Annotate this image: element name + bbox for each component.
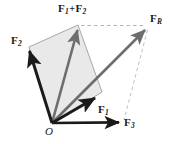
label-f1-main: F xyxy=(98,103,105,115)
label-f2-sub: 2 xyxy=(18,39,22,48)
label-f3-main: F xyxy=(124,116,131,128)
label-fr: FR xyxy=(150,13,162,24)
label-f1-plus-f2-operator: + xyxy=(69,3,76,14)
label-f1-plus-f2-first-main: F xyxy=(58,2,65,14)
label-f3-sub: 3 xyxy=(131,121,135,130)
label-f1: F1 xyxy=(98,104,109,115)
label-fr-main: F xyxy=(150,12,157,24)
label-f3: F3 xyxy=(124,117,135,128)
label-fr-sub: R xyxy=(157,17,162,26)
label-f1-plus-f2-first-sub: 1 xyxy=(65,7,69,16)
label-f2: F2 xyxy=(11,35,22,46)
label-f2-main: F xyxy=(11,34,18,46)
label-f1-plus-f2-second-sub: 2 xyxy=(83,7,87,16)
label-f1-plus-f2: F1+F2 xyxy=(58,3,86,14)
label-origin: O xyxy=(45,126,53,137)
label-f1-plus-f2-second-main: F xyxy=(76,2,83,14)
label-f1-sub: 1 xyxy=(105,108,109,117)
vector-f3-line xyxy=(52,122,119,123)
vector-diagram-canvas xyxy=(0,0,174,144)
vector-diagram-figure: F1+F2 FR F2 F1 F3 O xyxy=(0,0,174,144)
dashed-resultant-to-f3tip xyxy=(124,30,148,120)
